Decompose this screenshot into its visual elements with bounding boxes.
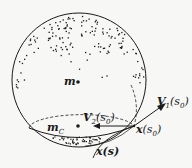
circle-c-front — [29, 126, 134, 138]
point-mc — [76, 124, 80, 128]
sphere-diagram — [0, 0, 192, 168]
dot-cloud-top — [16, 16, 145, 89]
label-m: m — [64, 76, 76, 87]
label-mc: mC — [47, 122, 64, 136]
label-x-s0: x(s0) — [136, 124, 161, 138]
label-x-s: x(s) — [96, 146, 119, 157]
meridian-arc — [131, 85, 136, 126]
label-v2: V2(s0) — [83, 112, 115, 126]
point-m — [76, 80, 80, 84]
label-v1: V1(s0) — [157, 96, 189, 110]
